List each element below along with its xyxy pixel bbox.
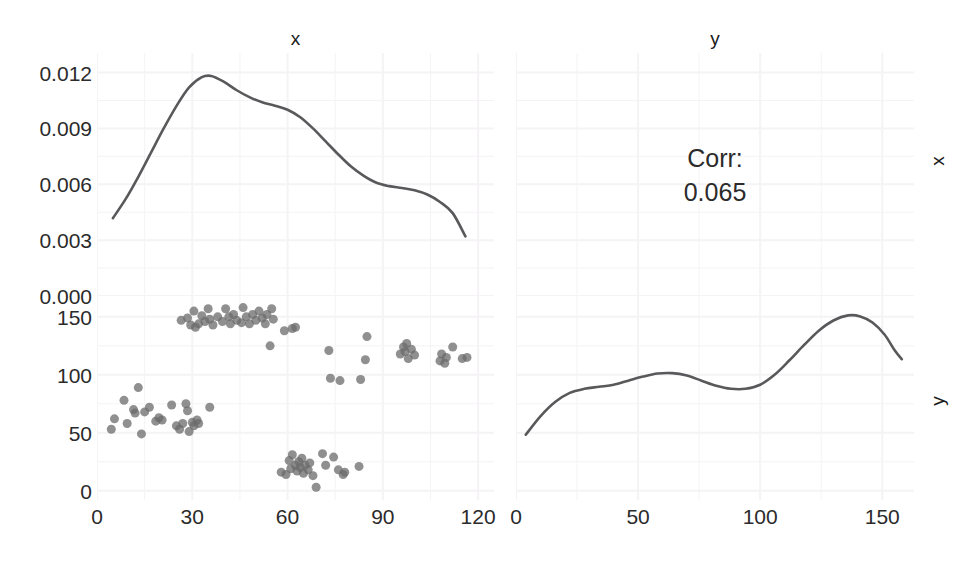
scatter-plot	[97, 296, 494, 500]
row-strip-title-y: y	[927, 381, 949, 421]
y-tick-label: 50	[4, 423, 92, 444]
y-tick-label: 150	[4, 307, 92, 328]
panel-scatter-y-vs-x	[97, 296, 494, 500]
column-strip-title-x: x	[97, 26, 494, 52]
density-x-plot	[97, 53, 494, 296]
y-tick-label: 100	[4, 365, 92, 386]
x-tick-label: 30	[181, 505, 204, 529]
panel-density-x	[97, 53, 494, 296]
ggpairs-figure: x y x y Corr: 0.065 0.012 0.009 0.006 0.…	[0, 0, 970, 562]
x-tick-label: 150	[865, 505, 900, 529]
row-strip-title-x: x	[927, 141, 949, 181]
x-tick-label: 50	[626, 505, 649, 529]
x-axis-tick-labels: 0 30 60 90 120 0 50 100 150	[0, 505, 970, 535]
y-tick-label: 0.012	[4, 63, 92, 84]
x-tick-label: 90	[371, 505, 394, 529]
y-tick-label: 0.003	[4, 230, 92, 251]
x-tick-label: 100	[743, 505, 778, 529]
y-tick-label: 0.006	[4, 174, 92, 195]
column-strip-title-y: y	[516, 26, 914, 52]
panel-density-y	[516, 296, 914, 500]
panel-correlation	[516, 53, 914, 296]
y-tick-label: 0.009	[4, 118, 92, 139]
x-tick-label: 0	[91, 505, 103, 529]
x-tick-label: 120	[461, 505, 496, 529]
y-axis-tick-labels: 0.012 0.009 0.006 0.003 0.000 150 100 50…	[0, 0, 92, 562]
y-tick-label: 0	[4, 481, 92, 502]
x-tick-label: 60	[276, 505, 299, 529]
y-tick-label: 0.000	[4, 286, 92, 307]
correlation-grid	[516, 53, 914, 296]
scatter-points	[107, 303, 472, 492]
x-tick-label: 0	[510, 505, 522, 529]
density-y-plot	[516, 296, 914, 500]
